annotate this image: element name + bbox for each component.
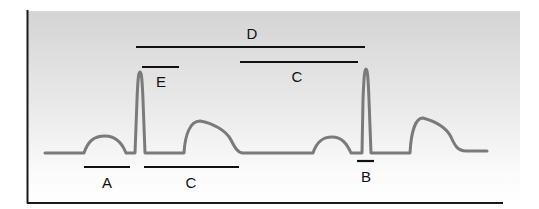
ecg-diagram: A C B E C D — [0, 0, 539, 209]
interval-c-lower-label: C — [186, 174, 197, 191]
interval-b-label: B — [361, 168, 371, 185]
interval-d-label: D — [247, 25, 258, 42]
interval-e-label: E — [156, 73, 166, 90]
interval-a-label: A — [102, 174, 112, 191]
interval-c-upper-label: C — [292, 68, 303, 85]
